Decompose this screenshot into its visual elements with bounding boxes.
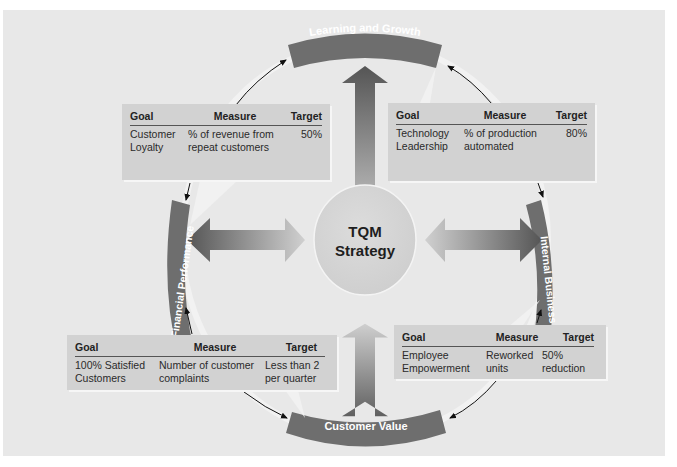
callout-pointer-top-right (420, 67, 436, 103)
header-goal: Goal (75, 341, 165, 355)
cell-target: 50% reduction (542, 349, 598, 376)
box-header: Goal Measure Target (130, 110, 322, 126)
cell-goal: 100% Satisfied Customers (75, 359, 159, 386)
center-label-line2: Strategy (320, 241, 410, 260)
header-target: Target (550, 109, 587, 123)
box-internal-goals: Goal Measure Target Employee Empowerment… (394, 325, 606, 379)
cycle-arrow-tr-to-top (448, 66, 492, 104)
box-header: Goal Measure Target (396, 109, 587, 125)
label-customer-value: Customer Value (324, 420, 407, 432)
cell-goal: Technology Leadership (396, 127, 464, 154)
header-goal: Goal (396, 109, 460, 123)
center-label-line1: TQM (320, 222, 410, 241)
cell-target: Less than 2 per quarter (265, 359, 329, 386)
box-financial-goals: Goal Measure Target Customer Loyalty % o… (122, 104, 330, 180)
box-header: Goal Measure Target (402, 331, 594, 347)
cell-measure: % of revenue from repeat customers (188, 128, 288, 155)
cell-measure: % of production automated (464, 127, 554, 154)
header-measure: Measure (190, 110, 280, 124)
header-target: Target (552, 331, 594, 345)
band-learning-growth (288, 34, 442, 69)
arrow-left-double (187, 218, 305, 262)
cell-target: 80% (554, 127, 587, 154)
header-measure: Measure (482, 331, 552, 345)
callout-pointer-top-left (190, 180, 238, 225)
header-measure: Measure (165, 341, 265, 355)
table-row: Technology Leadership % of production au… (396, 127, 587, 154)
box-learning-goals: Goal Measure Target Technology Leadershi… (388, 103, 595, 181)
box-header: Goal Measure Target (75, 341, 325, 357)
header-target: Target (280, 110, 322, 124)
table-row: Customer Loyalty % of revenue from repea… (130, 128, 322, 155)
cell-measure: Reworked units (486, 349, 542, 376)
header-measure: Measure (460, 109, 550, 123)
header-goal: Goal (130, 110, 190, 124)
header-target: Target (265, 341, 325, 355)
header-goal: Goal (402, 331, 482, 345)
table-row: 100% Satisfied Customers Number of custo… (75, 359, 329, 386)
box-customer-goals: Goal Measure Target 100% Satisfied Custo… (67, 335, 337, 390)
cell-goal: Customer Loyalty (130, 128, 188, 155)
cell-measure: Number of customer complaints (159, 359, 265, 386)
arrow-bottom-double (342, 324, 388, 416)
cell-goal: Employee Empowerment (402, 349, 486, 376)
arrow-right-double (425, 218, 542, 262)
cell-target: 50% (288, 128, 322, 155)
center-label: TQM Strategy (320, 222, 410, 260)
table-row: Employee Empowerment Reworked units 50% … (402, 349, 598, 376)
